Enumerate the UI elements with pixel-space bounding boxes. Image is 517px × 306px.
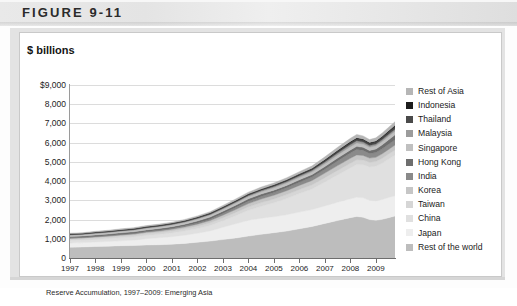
x-axis-tick-mark [325, 259, 326, 263]
legend-swatch-icon [406, 116, 413, 123]
legend-item[interactable]: China [406, 212, 510, 226]
legend-item[interactable]: Malaysia [406, 127, 510, 141]
legend-item-label: Japan [418, 229, 441, 238]
legend-item[interactable]: Rest of Asia [406, 84, 510, 98]
legend-item-label: Singapore [418, 144, 457, 153]
y-axis-tick-label: 8,000 [4, 99, 66, 109]
legend-swatch-icon [406, 173, 413, 180]
legend-item[interactable]: Indonesia [406, 98, 510, 112]
x-axis-tick-mark [274, 259, 275, 263]
legend-swatch-icon [406, 88, 413, 95]
y-axis-tick-label: 2,000 [4, 215, 66, 225]
legend-item[interactable]: Japan [406, 226, 510, 240]
x-axis-tick-mark [95, 259, 96, 263]
chart-legend: Rest of AsiaIndonesiaThailandMalaysiaSin… [406, 84, 510, 254]
y-axis-tick-label: 1,000 [4, 234, 66, 244]
plot-area [70, 85, 395, 258]
legend-swatch-icon [406, 244, 413, 251]
legend-item-label: Malaysia [418, 129, 452, 138]
legend-item-label: China [418, 214, 440, 223]
legend-item-label: Rest of Asia [418, 87, 464, 96]
x-axis-tick-mark [299, 259, 300, 263]
legend-swatch-icon [406, 159, 413, 166]
legend-item-label: Hong Kong [418, 158, 461, 167]
x-axis-tick-mark [70, 259, 71, 263]
x-axis-tick-mark [146, 259, 147, 263]
legend-item[interactable]: Hong Kong [406, 155, 510, 169]
legend-item-label: Indonesia [418, 101, 455, 110]
x-axis-tick-mark [172, 259, 173, 263]
legend-item-label: Thailand [418, 115, 451, 124]
caption-strip: Reserve Accumulation, 1997–2009: Emergin… [0, 288, 517, 306]
figure-page: FIGURE 9-11 $ billions $9,0008,0007,0006… [0, 0, 517, 306]
legend-item-label: Korea [418, 186, 441, 195]
y-axis-tick-label: 0 [4, 253, 66, 263]
legend-swatch-icon [406, 201, 413, 208]
legend-item-label: India [418, 172, 437, 181]
x-axis-tick-mark [248, 259, 249, 263]
y-axis-tick-label: 4,000 [4, 176, 66, 186]
legend-swatch-icon [406, 187, 413, 194]
legend-swatch-icon [406, 229, 413, 236]
stacked-area-chart [70, 85, 395, 258]
y-axis-tick-label: 6,000 [4, 138, 66, 148]
y-axis-tick-label: 7,000 [4, 118, 66, 128]
y-axis-tick-labels: $9,0008,0007,0006,0005,0004,0003,0002,00… [0, 0, 66, 306]
y-axis-tick-label: 3,000 [4, 195, 66, 205]
x-axis-tick-mark [350, 259, 351, 263]
legend-item[interactable]: Taiwan [406, 198, 510, 212]
banner-shadow [0, 22, 517, 26]
x-axis-tick-mark [376, 259, 377, 263]
legend-item[interactable]: Thailand [406, 112, 510, 126]
legend-item-label: Rest of the world [418, 243, 482, 252]
x-axis-tick-mark [197, 259, 198, 263]
legend-swatch-icon [406, 144, 413, 151]
x-axis-tick-mark [121, 259, 122, 263]
legend-item[interactable]: India [406, 169, 510, 183]
caption-text: Reserve Accumulation, 1997–2009: Emergin… [46, 288, 212, 297]
legend-swatch-icon [406, 130, 413, 137]
x-axis-line [69, 258, 396, 259]
y-axis-tick-label: 5,000 [4, 157, 66, 167]
legend-item[interactable]: Rest of the world [406, 240, 510, 254]
legend-swatch-icon [406, 215, 413, 222]
x-axis-tick-label: 2009 [361, 264, 391, 273]
legend-item[interactable]: Singapore [406, 141, 510, 155]
y-axis-tick-label: $9,000 [4, 80, 66, 90]
x-axis-tick-mark [223, 259, 224, 263]
legend-item[interactable]: Korea [406, 183, 510, 197]
legend-swatch-icon [406, 102, 413, 109]
banner-highlight [0, 0, 517, 2]
legend-item-label: Taiwan [418, 200, 445, 209]
frame-bottom-edge [10, 277, 505, 280]
